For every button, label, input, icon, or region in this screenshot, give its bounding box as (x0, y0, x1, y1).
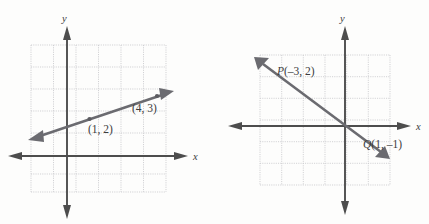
y-axis-label-left: y (61, 13, 67, 24)
coordinate-graph-right: y x P(–3, 2) Q(1, –1) (215, 0, 429, 224)
point-label-p-coords: (–3, 2) (284, 65, 315, 78)
coordinate-graph-left: y x (1, 2) (4, 3) (0, 0, 215, 224)
y-axis-arrow-down-icon (341, 201, 349, 215)
data-point-1-2 (87, 117, 91, 121)
y-axis-arrow-up-icon (63, 26, 71, 40)
point-label-q: Q(1, –1) (363, 138, 402, 151)
point-label-p: P(–3, 2) (276, 65, 315, 78)
x-axis-arrow-right-icon (174, 152, 188, 160)
right-graph-canvas: y x P(–3, 2) Q(1, –1) (215, 0, 429, 224)
x-axis-left (8, 152, 188, 160)
x-axis-arrow-right-icon (397, 122, 411, 130)
x-axis-arrow-left-icon (8, 152, 22, 160)
y-axis-right (341, 26, 349, 215)
x-axis-label-right: x (415, 121, 421, 132)
x-axis-label-left: x (192, 151, 198, 162)
point-label-1-2: (1, 2) (88, 123, 113, 136)
plot-line-arrow-right-icon (159, 88, 174, 100)
grid-left (31, 45, 166, 192)
left-graph-canvas: y x (1, 2) (4, 3) (0, 0, 215, 224)
y-axis-label-right: y (339, 13, 345, 24)
x-axis-arrow-left-icon (228, 122, 242, 130)
y-axis-left (63, 26, 71, 219)
y-axis-arrow-up-icon (341, 26, 349, 40)
point-label-4-3: (4, 3) (132, 102, 157, 115)
figure-root: y x (1, 2) (4, 3) (0, 0, 429, 224)
plot-line-arrow-left-icon (28, 130, 44, 142)
y-axis-arrow-down-icon (63, 205, 71, 219)
x-axis-right (228, 122, 411, 130)
data-point-4-3 (155, 94, 159, 98)
point-label-q-coords: (1, –1) (371, 138, 402, 151)
point-label-p-name: P (276, 65, 284, 77)
